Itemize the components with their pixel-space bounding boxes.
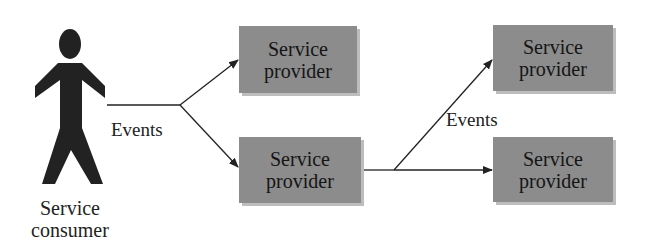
service-provider-box-1: Service provider bbox=[239, 26, 357, 93]
events-connector-1 bbox=[107, 60, 238, 167]
person-icon bbox=[35, 29, 105, 184]
events-label-2: Events bbox=[446, 109, 498, 131]
provider-label-line1: Service bbox=[523, 36, 583, 58]
consumer-label-line2: consumer bbox=[20, 219, 120, 241]
consumer-label-line1: Service bbox=[20, 197, 120, 219]
provider-label-line2: provider bbox=[264, 60, 332, 82]
events-label-1: Events bbox=[111, 119, 163, 141]
provider-label-line1: Service bbox=[270, 148, 330, 170]
service-provider-box-2: Service provider bbox=[239, 137, 361, 203]
service-provider-box-4: Service provider bbox=[493, 137, 613, 202]
service-provider-box-3: Service provider bbox=[493, 25, 613, 91]
service-consumer-label: Service consumer bbox=[20, 197, 120, 241]
provider-label-line2: provider bbox=[266, 170, 334, 192]
provider-label-line2: provider bbox=[519, 58, 587, 80]
provider-label-line1: Service bbox=[268, 38, 328, 60]
provider-label-line1: Service bbox=[523, 148, 583, 170]
provider-label-line2: provider bbox=[519, 170, 587, 192]
